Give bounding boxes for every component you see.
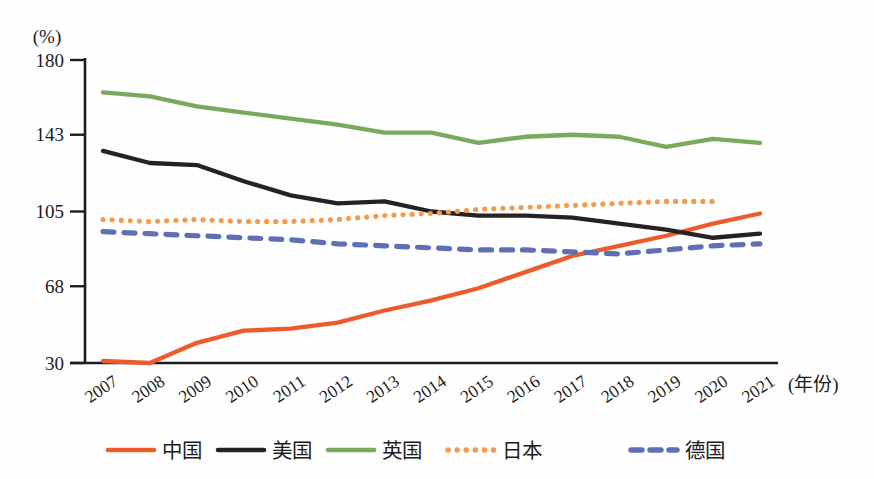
line-chart: 3068105143180(%)(年份)20072008200920102011… [0, 0, 874, 479]
legend-item-china: 中国 [108, 440, 202, 462]
chart-figure: 3068105143180(%)(年份)20072008200920102011… [0, 0, 874, 479]
x-tick-label-2016: 2016 [503, 371, 543, 407]
y-tick-label-105: 105 [36, 201, 65, 222]
x-tick-label-2012: 2012 [316, 371, 356, 407]
x-tick-label-2018: 2018 [597, 371, 637, 407]
series-line-china [103, 214, 760, 363]
y-tick-label-143: 143 [36, 124, 65, 145]
x-tick-label-2014: 2014 [410, 371, 450, 407]
legend-label-germany: 德国 [685, 440, 725, 462]
legend-label-uk: 英国 [382, 440, 422, 462]
x-tick-label-2010: 2010 [222, 371, 262, 407]
x-tick-label-2015: 2015 [456, 371, 496, 407]
x-tick-label-2011: 2011 [269, 371, 309, 407]
x-tick-label-2017: 2017 [550, 371, 590, 407]
x-tick-label-2013: 2013 [363, 371, 403, 407]
y-tick-label-30: 30 [45, 353, 64, 374]
y-tick-label-180: 180 [36, 50, 65, 71]
legend-item-germany: 德国 [631, 440, 725, 462]
legend-label-usa: 美国 [272, 440, 312, 462]
y-tick-label-68: 68 [45, 276, 64, 297]
series-line-usa [103, 151, 760, 238]
legend-label-china: 中国 [162, 440, 202, 462]
y-axis-unit-label: (%) [33, 26, 61, 48]
x-tick-label-2019: 2019 [644, 371, 684, 407]
x-tick-label-2007: 2007 [81, 371, 121, 407]
legend-item-japan: 日本 [448, 440, 542, 462]
x-tick-label-2021: 2021 [738, 371, 778, 407]
x-tick-label-2020: 2020 [691, 371, 731, 407]
legend-item-usa: 美国 [218, 440, 312, 462]
legend-item-uk: 英国 [328, 440, 422, 462]
legend-label-japan: 日本 [502, 440, 542, 462]
x-tick-label-2009: 2009 [175, 371, 215, 407]
x-axis-unit-label: (年份) [788, 374, 839, 396]
x-tick-label-2008: 2008 [128, 371, 168, 407]
series-line-uk [103, 92, 760, 147]
